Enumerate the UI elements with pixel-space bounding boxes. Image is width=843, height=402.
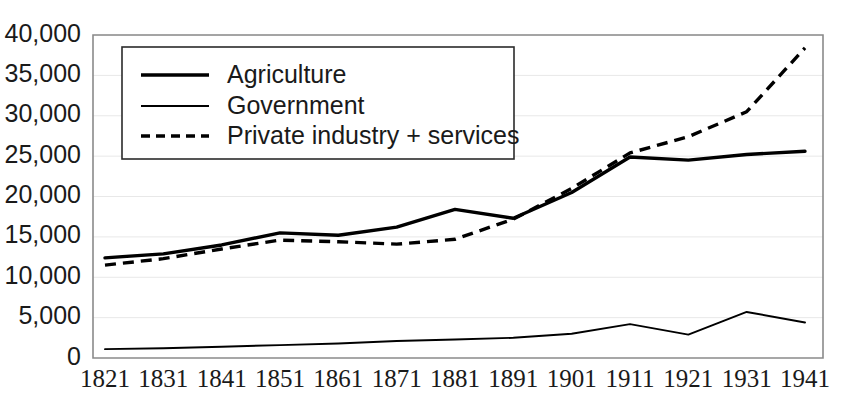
y-tick-label-40000: 40,000 xyxy=(5,19,81,47)
x-tick-label-1941: 1941 xyxy=(780,365,830,392)
y-tick-label-15000: 15,000 xyxy=(5,220,81,248)
x-tick-label-1921: 1921 xyxy=(663,365,713,392)
x-tick-label-1891: 1891 xyxy=(488,365,538,392)
x-tick-label-1851: 1851 xyxy=(255,365,305,392)
legend-label-private-industry-services: Private industry + services xyxy=(227,121,519,149)
y-tick-label-0: 0 xyxy=(67,342,81,370)
x-tick-label-1901: 1901 xyxy=(547,365,597,392)
line-chart: 05,00010,00015,00020,00025,00030,00035,0… xyxy=(0,0,843,402)
y-tick-label-20000: 20,000 xyxy=(5,180,81,208)
x-tick-label-1831: 1831 xyxy=(138,365,188,392)
chart-legend: Agriculture Government Private industry … xyxy=(122,47,519,159)
legend-label-agriculture: Agriculture xyxy=(227,60,347,88)
y-tick-label-30000: 30,000 xyxy=(5,99,81,127)
legend-label-government: Government xyxy=(227,91,365,119)
x-tick-label-1821: 1821 xyxy=(80,365,130,392)
x-tick-label-1911: 1911 xyxy=(605,365,654,392)
x-tick-label-1881: 1881 xyxy=(430,365,480,392)
x-tick-label-1861: 1861 xyxy=(313,365,363,392)
y-tick-label-10000: 10,000 xyxy=(5,261,81,289)
x-tick-label-1871: 1871 xyxy=(372,365,422,392)
chart-container: 05,00010,00015,00020,00025,00030,00035,0… xyxy=(0,0,843,402)
y-tick-label-25000: 25,000 xyxy=(5,140,81,168)
y-tick-label-5000: 5,000 xyxy=(18,301,81,329)
y-tick-label-35000: 35,000 xyxy=(5,59,81,87)
x-tick-label-1841: 1841 xyxy=(197,365,247,392)
x-tick-label-1931: 1931 xyxy=(722,365,772,392)
